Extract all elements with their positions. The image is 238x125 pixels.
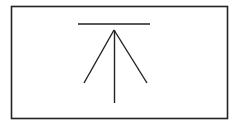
scroll-to-top-diagram bbox=[0, 0, 238, 125]
arrow-left-barb bbox=[84, 30, 114, 83]
arrow-to-top-icon bbox=[78, 24, 150, 103]
arrow-right-barb bbox=[114, 30, 147, 83]
